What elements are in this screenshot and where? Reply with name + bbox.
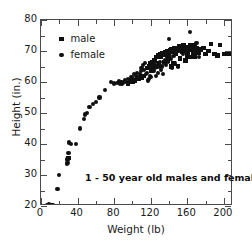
data-point-female <box>188 30 192 34</box>
data-point-male <box>185 53 190 58</box>
data-point-male <box>226 52 231 57</box>
y-tick-label: 40 <box>24 138 37 148</box>
data-point-female <box>55 187 59 191</box>
legend-label-female: female <box>71 50 105 60</box>
data-point-male <box>218 43 223 48</box>
data-point-female <box>158 60 162 64</box>
data-point-female <box>197 55 201 59</box>
data-point-male <box>209 42 214 47</box>
data-point-female <box>149 75 153 79</box>
data-point-female <box>94 100 98 104</box>
data-point-female <box>176 64 180 68</box>
data-point-female <box>139 69 143 73</box>
data-point-female <box>140 74 144 78</box>
data-point-female <box>161 72 165 76</box>
data-point-female <box>185 47 189 51</box>
data-point-female <box>170 66 174 70</box>
axis-tick <box>225 206 231 207</box>
x-tick-label: 160 <box>177 208 196 218</box>
data-point-female <box>69 142 73 146</box>
data-point-female <box>191 49 195 53</box>
x-tick-label: 80 <box>107 208 120 218</box>
x-tick-label: 0 <box>37 208 43 218</box>
data-point-female <box>97 95 101 99</box>
x-tick-label: 120 <box>140 208 159 218</box>
data-point-female <box>167 37 171 41</box>
data-point-female <box>103 88 107 92</box>
y-axis-title: Height (in.) <box>10 52 22 162</box>
legend-label-male: male <box>71 34 96 44</box>
y-tick-label: 80 <box>24 14 37 24</box>
data-point-female <box>57 173 61 177</box>
chart-annotation: 1 - 50 year old males and females <box>85 172 252 183</box>
data-point-female <box>66 151 70 155</box>
data-point-female <box>181 52 185 56</box>
legend-marker-circle-icon <box>59 53 64 58</box>
x-tick-label: 40 <box>70 208 83 218</box>
data-point-male <box>178 56 183 61</box>
legend-item-male: male <box>59 32 105 46</box>
data-point-female <box>85 111 89 115</box>
data-point-male <box>215 53 220 58</box>
data-point-female <box>160 64 164 68</box>
data-point-female <box>120 81 124 85</box>
y-tick-label: 30 <box>24 169 37 179</box>
x-axis-title: Weight (lb) <box>40 223 232 235</box>
chart-legend: male female <box>59 32 105 64</box>
scatter-chart-figure: Height (in.) Weight (lb) 20304050607080 … <box>0 0 252 242</box>
data-point-female <box>78 126 82 130</box>
y-tick-label: 50 <box>24 107 37 117</box>
data-point-female <box>82 117 86 121</box>
data-point-female <box>74 142 78 146</box>
data-point-female <box>194 41 198 45</box>
y-tick-label: 20 <box>24 200 37 210</box>
data-point-male <box>206 49 211 54</box>
legend-marker-square-icon <box>59 37 64 42</box>
data-point-female <box>51 203 55 204</box>
x-tick-label: 200 <box>213 208 232 218</box>
axis-tick <box>41 206 47 207</box>
y-tick-label: 60 <box>24 76 37 86</box>
y-tick-label: 70 <box>24 45 37 55</box>
legend-item-female: female <box>59 48 105 62</box>
plot-frame: male female 1 - 50 year old males and fe… <box>40 19 232 205</box>
data-point-female <box>65 157 69 161</box>
